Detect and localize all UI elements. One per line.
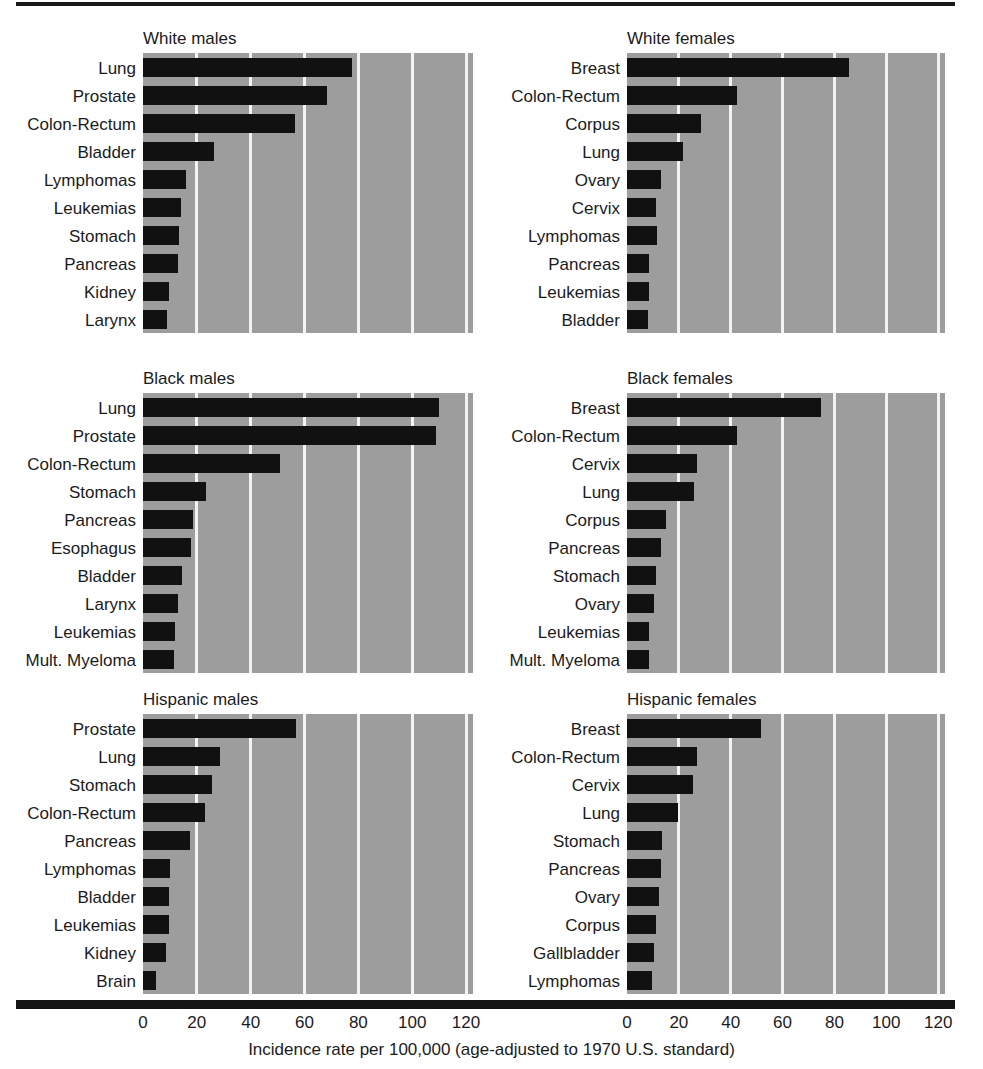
category-label: Cervix: [572, 200, 620, 217]
gridline-80: [833, 714, 836, 994]
plot-area: [143, 714, 473, 994]
chart-panel-black-males: Black malesLungProstateColon-RectumStoma…: [143, 393, 473, 673]
bar: [627, 887, 659, 906]
bar: [627, 594, 654, 613]
bar: [143, 254, 178, 273]
plot-area: [143, 393, 473, 673]
bar: [143, 747, 220, 766]
category-label: Stomach: [69, 777, 136, 794]
bar: [627, 170, 661, 189]
tick-label: 100: [872, 1013, 900, 1033]
category-label: Breast: [571, 721, 620, 738]
panel-title: Hispanic females: [627, 690, 756, 710]
category-label: Colon-Rectum: [511, 749, 620, 766]
x-axis-bar: [16, 1000, 955, 1009]
category-label: Ovary: [575, 172, 620, 189]
bar: [627, 58, 849, 77]
bar: [627, 426, 737, 445]
category-label: Leukemias: [54, 917, 136, 934]
tick-label: 120: [452, 1013, 480, 1033]
bar: [627, 831, 662, 850]
bar: [627, 510, 666, 529]
category-label: Bladder: [561, 312, 620, 329]
bar: [143, 426, 436, 445]
bar: [143, 482, 206, 501]
category-label: Colon-Rectum: [511, 88, 620, 105]
category-label: Cervix: [572, 456, 620, 473]
bar: [143, 454, 280, 473]
category-label: Lymphomas: [44, 861, 136, 878]
bar: [627, 650, 649, 669]
gridline-120: [465, 393, 468, 673]
category-label: Pancreas: [548, 861, 620, 878]
tick-label: 60: [295, 1013, 314, 1033]
panel-title: White males: [143, 29, 237, 49]
bar: [143, 398, 439, 417]
category-label: Lymphomas: [528, 228, 620, 245]
tick-label: 80: [349, 1013, 368, 1033]
chart-panel-hispanic-females: Hispanic femalesBreastColon-RectumCervix…: [627, 714, 945, 994]
bar: [143, 887, 169, 906]
category-label: Pancreas: [548, 540, 620, 557]
category-label: Bladder: [77, 144, 136, 161]
bar: [627, 803, 678, 822]
category-label: Stomach: [553, 568, 620, 585]
bar: [143, 971, 156, 990]
bar: [143, 859, 170, 878]
figure-canvas: White malesLungProstateColon-RectumBladd…: [0, 0, 983, 1069]
category-label: Colon-Rectum: [27, 116, 136, 133]
tick-label: 40: [721, 1013, 740, 1033]
category-label: Corpus: [565, 512, 620, 529]
bar: [143, 58, 352, 77]
gridline-120: [937, 714, 940, 994]
category-label: Colon-Rectum: [27, 805, 136, 822]
panel-title: Black females: [627, 369, 733, 389]
gridline-40: [249, 714, 252, 994]
chart-panel-white-females: White femalesBreastColon-RectumCorpusLun…: [627, 53, 945, 333]
gridline-60: [781, 714, 784, 994]
category-label: Prostate: [73, 88, 136, 105]
gridline-80: [833, 53, 836, 333]
gridline-60: [781, 53, 784, 333]
category-label: Cervix: [572, 777, 620, 794]
category-label: Ovary: [575, 596, 620, 613]
category-label: Pancreas: [64, 256, 136, 273]
bar: [143, 226, 179, 245]
panel-title: Black males: [143, 369, 235, 389]
gridline-100: [885, 714, 888, 994]
bar: [627, 943, 654, 962]
bar: [627, 398, 821, 417]
gridline-80: [357, 53, 360, 333]
gridline-100: [885, 393, 888, 673]
chart-panel-hispanic-males: Hispanic malesProstateLungStomachColon-R…: [143, 714, 473, 994]
category-label: Kidney: [84, 945, 136, 962]
bar: [143, 831, 190, 850]
chart-panel-white-males: White malesLungProstateColon-RectumBladd…: [143, 53, 473, 333]
bar: [627, 86, 737, 105]
category-label: Stomach: [69, 484, 136, 501]
bar: [143, 310, 167, 329]
bar: [143, 510, 193, 529]
category-label: Bladder: [77, 889, 136, 906]
plot-area: [143, 53, 473, 333]
category-label: Mult. Myeloma: [509, 652, 620, 669]
bar: [627, 747, 697, 766]
category-label: Corpus: [565, 917, 620, 934]
category-label: Lung: [98, 400, 136, 417]
bar: [143, 114, 295, 133]
tick-label: 120: [924, 1013, 952, 1033]
gridline-120: [937, 393, 940, 673]
bar: [627, 310, 648, 329]
tick-label: 60: [773, 1013, 792, 1033]
bar: [143, 803, 205, 822]
category-label: Prostate: [73, 721, 136, 738]
plot-area: [627, 53, 945, 333]
category-label: Leukemias: [54, 200, 136, 217]
category-label: Pancreas: [64, 833, 136, 850]
category-label: Leukemias: [538, 624, 620, 641]
gridline-80: [833, 393, 836, 673]
panel-title: Hispanic males: [143, 690, 258, 710]
tick-label: 40: [241, 1013, 260, 1033]
bar: [143, 86, 327, 105]
category-label: Leukemias: [538, 284, 620, 301]
